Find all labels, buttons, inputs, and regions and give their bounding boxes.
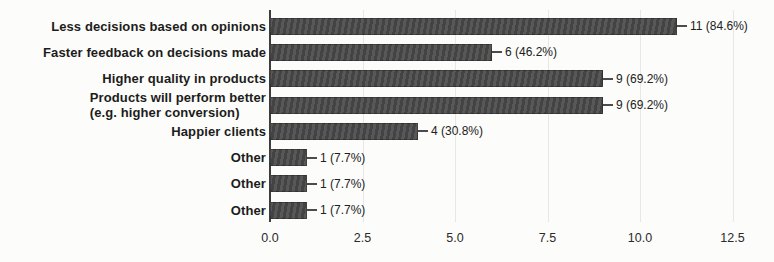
chart-row: Other1 (7.7%) xyxy=(0,197,774,223)
x-tick-label: 10.0 xyxy=(628,231,652,245)
chart-row: Other1 (7.7%) xyxy=(0,171,774,197)
leader-dash xyxy=(677,25,687,27)
bar xyxy=(270,97,603,114)
chart-row: Products will perform better (e.g. highe… xyxy=(0,92,774,118)
x-tick-label: 12.5 xyxy=(720,231,744,245)
survey-results-bar-chart: Less decisions based on opinions11 (84.6… xyxy=(0,0,774,262)
bar xyxy=(270,18,677,35)
leader-dash xyxy=(307,157,317,159)
chart-row: Other1 (7.7%) xyxy=(0,144,774,170)
value-label: 11 (84.6%) xyxy=(690,19,748,33)
category-label: Faster feedback on decisions made xyxy=(0,45,266,60)
leader-dash xyxy=(418,130,428,132)
bar-cell: 9 (69.2%) xyxy=(270,92,774,118)
bar xyxy=(270,70,603,87)
bar xyxy=(270,149,307,166)
leader-dash xyxy=(603,78,613,80)
bar-cell: 1 (7.7%) xyxy=(270,144,774,170)
value-label: 1 (7.7%) xyxy=(320,177,365,191)
category-label: Less decisions based on opinions xyxy=(0,19,266,34)
bar xyxy=(270,123,418,140)
leader-dash xyxy=(307,209,317,211)
bar-cell: 11 (84.6%) xyxy=(270,13,774,39)
x-tick-label: 0.0 xyxy=(261,231,278,245)
bar-cell: 1 (7.7%) xyxy=(270,171,774,197)
x-tick-label: 7.5 xyxy=(539,231,556,245)
value-label: 9 (69.2%) xyxy=(616,72,668,86)
bar xyxy=(270,44,492,61)
chart-row: Less decisions based on opinions11 (84.6… xyxy=(0,13,774,39)
category-label: Products will perform better (e.g. highe… xyxy=(0,90,266,120)
value-label: 1 (7.7%) xyxy=(320,151,365,165)
bar-rows: Less decisions based on opinions11 (84.6… xyxy=(0,13,774,223)
bar-cell: 9 (69.2%) xyxy=(270,66,774,92)
bar xyxy=(270,175,307,192)
leader-dash xyxy=(307,183,317,185)
category-label: Higher quality in products xyxy=(0,71,266,86)
x-axis: 0.02.55.07.510.012.5 xyxy=(0,231,774,247)
category-label: Happier clients xyxy=(0,124,266,139)
chart-row: Faster feedback on decisions made6 (46.2… xyxy=(0,39,774,65)
category-label: Other xyxy=(0,150,266,165)
bar-cell: 1 (7.7%) xyxy=(270,197,774,223)
leader-dash xyxy=(492,51,502,53)
value-label: 6 (46.2%) xyxy=(505,45,557,59)
x-tick-label: 5.0 xyxy=(446,231,463,245)
category-label: Other xyxy=(0,176,266,191)
value-label: 9 (69.2%) xyxy=(616,98,668,112)
value-label: 4 (30.8%) xyxy=(431,124,483,138)
value-label: 1 (7.7%) xyxy=(320,203,365,217)
chart-row: Happier clients4 (30.8%) xyxy=(0,118,774,144)
bar xyxy=(270,202,307,219)
x-tick-label: 2.5 xyxy=(354,231,371,245)
bar-cell: 4 (30.8%) xyxy=(270,118,774,144)
leader-dash xyxy=(603,104,613,106)
category-label: Other xyxy=(0,203,266,218)
category-label-text: Products will perform better (e.g. highe… xyxy=(90,90,266,120)
bar-cell: 6 (46.2%) xyxy=(270,39,774,65)
chart-row: Higher quality in products9 (69.2%) xyxy=(0,66,774,92)
